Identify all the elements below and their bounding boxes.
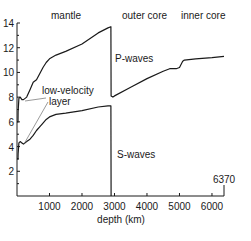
region-label-inner-core: inner core bbox=[181, 10, 226, 21]
x-tick-label: 2000 bbox=[71, 201, 94, 212]
series-p-waves bbox=[17, 27, 224, 122]
x-tick-label: 1000 bbox=[38, 201, 61, 212]
annotation-layer: layer bbox=[49, 96, 71, 107]
x-tick-label: 4000 bbox=[136, 201, 159, 212]
curve-label-s-waves: S-waves bbox=[117, 149, 155, 160]
y-tick-label: 2 bbox=[8, 166, 14, 177]
region-label-outer-core: outer core bbox=[122, 10, 167, 21]
annotation-low-velocity: low-velocity bbox=[42, 85, 94, 96]
y-tick-label: 10 bbox=[3, 67, 15, 78]
x-end-label: 6370 bbox=[213, 174, 236, 185]
y-tick-label: 14 bbox=[3, 18, 15, 29]
y-tick-label: 6 bbox=[8, 117, 14, 128]
x-tick-label: 3000 bbox=[103, 201, 126, 212]
y-tick-label: 8 bbox=[8, 92, 14, 103]
annotation-pointer-s bbox=[24, 102, 48, 144]
labels: mantle outer core inner core P-waves S-w… bbox=[24, 10, 236, 225]
y-tick-label: 4 bbox=[8, 142, 14, 153]
axes: 100020003000400050006000 2468101214 bbox=[3, 18, 224, 212]
curve-label-p-waves: P-waves bbox=[115, 53, 153, 64]
annotation-pointer-p bbox=[25, 98, 46, 101]
x-tick-label: 5000 bbox=[168, 201, 191, 212]
x-tick-label: 6000 bbox=[201, 201, 224, 212]
velocity-depth-chart: 100020003000400050006000 2468101214 mant… bbox=[0, 0, 251, 241]
y-tick-label: 12 bbox=[3, 43, 15, 54]
series-s-waves bbox=[17, 106, 111, 196]
region-label-mantle: mantle bbox=[51, 10, 81, 21]
x-axis-label: depth (km) bbox=[97, 214, 145, 225]
